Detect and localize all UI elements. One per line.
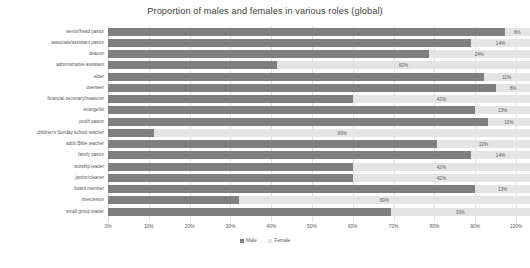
bar-track: 8%	[108, 84, 530, 92]
bar-value-label: 22%	[479, 142, 488, 147]
category-label: intercessor	[0, 197, 108, 203]
bar-value-label: 6%	[514, 29, 521, 34]
bar-value-label: 42%	[437, 97, 446, 102]
legend-item[interactable]: Female	[268, 238, 291, 243]
category-label: financial secretary/treasurer	[0, 96, 108, 102]
bar-value-label: 89%	[338, 130, 347, 135]
chart-legend: MaleFemale	[0, 238, 530, 243]
x-axis-tick: 90%	[470, 224, 480, 229]
bar-track: 60%	[108, 61, 530, 69]
bar-segment-male[interactable]	[108, 50, 429, 58]
bar-value-label: 33%	[456, 209, 465, 214]
legend-label: Male	[246, 238, 257, 243]
bar-segment-male[interactable]	[108, 185, 475, 193]
bar-value-label: 11%	[502, 74, 511, 79]
bar-row[interactable]: family pastor14%	[0, 150, 530, 161]
bar-row[interactable]: administrative assistant60%	[0, 60, 530, 71]
bar-value-label: 10%	[504, 119, 513, 124]
bar-row[interactable]: board member13%	[0, 184, 530, 195]
category-label: janitor/cleaner	[0, 175, 108, 181]
bar-segment-male[interactable]	[108, 106, 475, 114]
bar-row[interactable]: intercessor69%	[0, 195, 530, 206]
bar-value-label: 24%	[475, 52, 484, 57]
category-label: overseer	[0, 85, 108, 91]
bar-segment-male[interactable]	[108, 118, 488, 126]
bar-track: 89%	[108, 129, 530, 137]
bar-value-label: 13%	[498, 108, 507, 113]
bar-segment-male[interactable]	[108, 151, 471, 159]
bar-track: 42%	[108, 95, 530, 103]
x-axis-tick: 60%	[348, 224, 358, 229]
category-label: administrative assistant	[0, 62, 108, 68]
category-label: small group leader	[0, 209, 108, 215]
category-label: children's Sunday school teacher	[0, 130, 108, 136]
bar-row[interactable]: elder11%	[0, 71, 530, 82]
bar-row[interactable]: overseer8%	[0, 82, 530, 93]
plot-area: senior/head pastor6%associate/assistant …	[0, 26, 530, 226]
bar-segment-male[interactable]	[108, 73, 484, 81]
bar-row[interactable]: financial secretary/treasurer42%	[0, 94, 530, 105]
category-label: elder	[0, 74, 108, 80]
category-label: senior/head pastor	[0, 29, 108, 35]
bar-rows: senior/head pastor6%associate/assistant …	[0, 26, 530, 222]
bar-track: 14%	[108, 151, 530, 159]
category-label: evangelist	[0, 107, 108, 113]
bar-track: 22%	[108, 140, 530, 148]
bar-row[interactable]: janitor/cleaner42%	[0, 172, 530, 183]
x-axis-tick: 10%	[144, 224, 154, 229]
x-axis-tick: 40%	[266, 224, 276, 229]
x-axis-tick: 20%	[185, 224, 195, 229]
bar-value-label: 14%	[496, 153, 505, 158]
bar-track: 69%	[108, 196, 530, 204]
x-axis-tick: 70%	[389, 224, 399, 229]
bar-segment-male[interactable]	[108, 28, 505, 36]
legend-item[interactable]: Male	[240, 238, 257, 243]
x-axis: 0%10%20%30%40%50%60%70%80%90%100%	[108, 224, 516, 236]
bar-row[interactable]: deacon24%	[0, 49, 530, 60]
category-label: family pastor	[0, 152, 108, 158]
category-label: board member	[0, 186, 108, 192]
bar-segment-male[interactable]	[108, 163, 353, 171]
bar-segment-male[interactable]	[108, 61, 277, 69]
category-label: deacon	[0, 51, 108, 57]
bar-segment-male[interactable]	[108, 174, 353, 182]
bar-value-label: 14%	[496, 40, 505, 45]
bar-track: 42%	[108, 163, 530, 171]
bar-segment-male[interactable]	[108, 208, 391, 216]
x-axis-tick: 30%	[225, 224, 235, 229]
bar-segment-male[interactable]	[108, 140, 437, 148]
bar-segment-male[interactable]	[108, 196, 239, 204]
female-swatch-icon	[268, 239, 272, 243]
bar-track: 10%	[108, 118, 530, 126]
bar-track: 42%	[108, 174, 530, 182]
category-label: worship leader	[0, 164, 108, 170]
bar-value-label: 42%	[437, 175, 446, 180]
bar-segment-male[interactable]	[108, 95, 353, 103]
chart-figure: Proportion of males and females in vario…	[0, 0, 530, 268]
chart-title: Proportion of males and females in vario…	[0, 6, 530, 16]
bar-row[interactable]: small group leader33%	[0, 206, 530, 217]
bar-value-label: 13%	[498, 187, 507, 192]
bar-row[interactable]: evangelist13%	[0, 105, 530, 116]
bar-row[interactable]: worship leader42%	[0, 161, 530, 172]
legend-label: Female	[274, 238, 290, 243]
bar-row[interactable]: children's Sunday school teacher89%	[0, 127, 530, 138]
bar-track: 11%	[108, 73, 530, 81]
category-label: youth pastor	[0, 119, 108, 125]
bar-row[interactable]: youth pastor10%	[0, 116, 530, 127]
bar-segment-male[interactable]	[108, 129, 154, 137]
bar-track: 6%	[108, 28, 530, 36]
bar-segment-male[interactable]	[108, 84, 496, 92]
bar-track: 13%	[108, 185, 530, 193]
x-axis-tick: 0%	[104, 224, 111, 229]
x-axis-tick: 100%	[510, 224, 523, 229]
bar-track: 33%	[108, 208, 530, 216]
bar-row[interactable]: adult Bible teacher22%	[0, 139, 530, 150]
male-swatch-icon	[240, 239, 244, 243]
x-axis-tick: 50%	[307, 224, 317, 229]
category-label: adult Bible teacher	[0, 141, 108, 147]
bar-row[interactable]: senior/head pastor6%	[0, 26, 530, 37]
bar-segment-male[interactable]	[108, 39, 471, 47]
x-axis-tick: 80%	[429, 224, 439, 229]
bar-row[interactable]: associate/assistant pastor14%	[0, 37, 530, 48]
